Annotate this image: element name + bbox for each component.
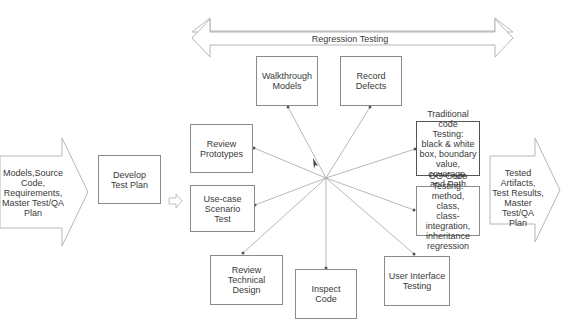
input-arrow-text: Models,Source Code, Requirements, Master…	[2, 168, 64, 218]
cursor-icon	[313, 158, 318, 169]
regression-testing-label: Regression Testing	[270, 34, 430, 44]
spoke-lines	[243, 107, 415, 268]
user-interface-testing-label: User Interface Testing	[389, 271, 446, 291]
small-hollow-arrow-icon	[169, 194, 182, 208]
oo-code-testing-label: OO Code Testing: method, class, class-in…	[419, 171, 477, 251]
diagram-canvas	[0, 0, 580, 330]
arrowheads	[242, 106, 417, 270]
inspect-code-label: Inspect Code	[311, 284, 340, 304]
develop-test-plan-box: Develop Test Plan	[98, 155, 161, 204]
review-technical-design-label: Review Technical Design	[213, 265, 280, 295]
spoke-walkthrough	[288, 107, 326, 178]
regression-testing-arrow	[192, 18, 513, 32]
activity-inspect-code: Inspect Code	[295, 269, 357, 319]
activity-oo-code-testing: OO Code Testing: method, class, class-in…	[416, 186, 480, 236]
regression-testing-text: Regression Testing	[312, 34, 388, 44]
spoke-ui	[326, 178, 414, 254]
use-case-label: Use-case Scenario Test	[193, 194, 252, 224]
activity-review-technical-design: Review Technical Design	[210, 255, 283, 305]
spoke-oo	[326, 178, 414, 210]
develop-test-plan-label: Develop Test Plan	[111, 170, 148, 190]
activity-use-case-scenario: Use-case Scenario Test	[190, 185, 255, 232]
walkthrough-label: Walkthrough Models	[262, 71, 312, 91]
record-defects-label: Record Defects	[356, 71, 387, 91]
activity-user-interface-testing: User Interface Testing	[384, 256, 450, 306]
output-arrow-text: Tested Artifacts, Test Results, Master T…	[492, 168, 544, 228]
input-arrow-label: Models,Source Code, Requirements, Master…	[0, 168, 66, 218]
activity-traditional-code-testing: Traditional code Testing: black & white …	[416, 121, 480, 176]
review-prototypes-label: Review Prototypes	[200, 139, 243, 159]
activity-review-prototypes: Review Prototypes	[190, 124, 253, 173]
activity-record-defects: Record Defects	[340, 56, 402, 106]
spoke-usecase	[255, 178, 326, 205]
output-arrow-label: Tested Artifacts, Test Results, Master T…	[488, 168, 548, 228]
spoke-techdesign	[243, 178, 326, 253]
spoke-record	[326, 107, 370, 178]
spoke-traditional	[326, 149, 415, 178]
activity-walkthrough-models: Walkthrough Models	[256, 56, 318, 106]
